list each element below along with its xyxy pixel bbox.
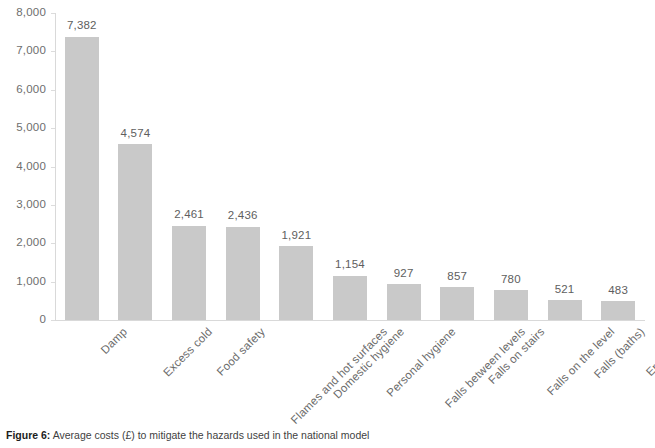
y-axis-tick: 3,000 [0, 199, 46, 211]
bar-slot: 7,382 [55, 13, 109, 320]
bar[interactable] [387, 284, 421, 320]
y-axis-tick: 5,000 [0, 122, 46, 134]
bar-slot: 927 [377, 13, 431, 320]
bar-value-label: 1,921 [281, 230, 311, 242]
bar-slot: 1,154 [323, 13, 377, 320]
y-axis-tick-mark [51, 320, 55, 321]
bar-value-label: 2,436 [228, 210, 258, 222]
bar-value-label: 521 [555, 284, 575, 296]
bar-value-label: 927 [394, 268, 414, 280]
bar[interactable] [172, 226, 206, 320]
y-axis-tick: 4,000 [0, 161, 46, 173]
bar-value-label: 4,574 [121, 128, 151, 140]
x-axis-line [55, 320, 645, 321]
x-axis-category-label: Damp [99, 326, 129, 356]
y-axis-tick: 6,000 [0, 84, 46, 96]
bar-value-label: 7,382 [67, 20, 97, 32]
x-axis-category-labels: DampExcess coldFood safetyFlames and hot… [55, 326, 645, 416]
bar[interactable] [333, 276, 367, 320]
bar-value-label: 2,461 [174, 209, 204, 221]
y-axis-tick: 7,000 [0, 45, 46, 57]
bar[interactable] [65, 37, 99, 320]
x-axis-category-label: Falls between levels [443, 326, 527, 410]
bar[interactable] [548, 300, 582, 320]
y-axis-tick: 8,000 [0, 7, 46, 19]
y-axis-tick: 2,000 [0, 237, 46, 249]
bar-slot: 780 [484, 13, 538, 320]
bar-series: 7,3824,5742,4612,4361,9211,1549278577805… [55, 13, 645, 320]
caption-label: Figure 6: [6, 429, 50, 441]
bar-slot: 4,574 [109, 13, 163, 320]
bar[interactable] [440, 287, 474, 320]
bar[interactable] [279, 246, 313, 320]
x-axis-category-label: Flames and hot surfaces [289, 326, 389, 426]
bar-slot: 857 [430, 13, 484, 320]
bar-slot: 1,921 [270, 13, 324, 320]
bar-slot: 483 [591, 13, 645, 320]
x-axis-category-label: Food safety [215, 326, 267, 378]
bar-slot: 2,436 [216, 13, 270, 320]
bar[interactable] [118, 144, 152, 320]
bar[interactable] [601, 301, 635, 320]
caption-text: Average costs (£) to mitigate the hazard… [50, 429, 369, 441]
y-axis-tick: 1,000 [0, 276, 46, 288]
bar-value-label: 483 [608, 285, 628, 297]
bar-chart: 8,0007,0006,0005,0004,0003,0002,0001,000… [0, 0, 655, 420]
bar[interactable] [494, 290, 528, 320]
bar-value-label: 857 [447, 271, 467, 283]
bar[interactable] [226, 227, 260, 320]
x-axis-category-label: Excess cold [162, 326, 215, 379]
bar-slot: 2,461 [162, 13, 216, 320]
figure-caption: Figure 6: Average costs (£) to mitigate … [6, 429, 369, 442]
bar-value-label: 780 [501, 274, 521, 286]
bar-value-label: 1,154 [335, 259, 365, 271]
bar-slot: 521 [538, 13, 592, 320]
figure-container: 8,0007,0006,0005,0004,0003,0002,0001,000… [0, 0, 655, 448]
y-axis-tick: 0 [0, 314, 46, 326]
